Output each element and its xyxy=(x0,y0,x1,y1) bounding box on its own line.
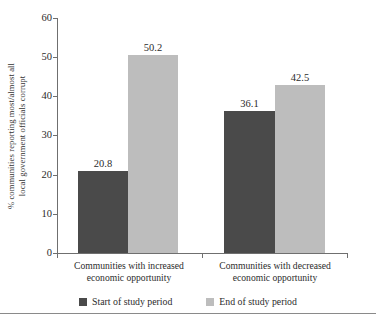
bar-increased-start[interactable] xyxy=(78,171,128,253)
bar-value-decreased-end: 42.5 xyxy=(275,72,325,83)
legend-item-start-of-study-period[interactable]: Start of study period xyxy=(79,297,172,307)
legend-swatch-icon-start xyxy=(79,298,87,306)
bar-chart-figure: % communities reporting most/almost all … xyxy=(0,0,376,324)
x-category-label-increased-line-1: Communities with increased xyxy=(54,260,204,272)
x-category-label-decreased-line-1: Communities with decreased xyxy=(200,260,350,272)
x-category-label-increased-line-2: economic opportunity xyxy=(54,272,204,284)
legend-item-end-of-study-period[interactable]: End of study period xyxy=(206,297,297,307)
x-category-label-increased: Communities with increased economic oppo… xyxy=(54,260,204,283)
bar-value-increased-end: 50.2 xyxy=(128,42,178,53)
legend-label-end: End of study period xyxy=(219,297,297,307)
bottom-divider xyxy=(0,313,376,314)
chart-legend: Start of study period End of study perio… xyxy=(0,294,376,310)
bar-value-increased-start: 20.8 xyxy=(78,158,128,169)
bar-decreased-start[interactable] xyxy=(224,111,275,253)
x-category-label-decreased: Communities with decreased economic oppo… xyxy=(200,260,350,283)
bar-value-decreased-start: 36.1 xyxy=(224,98,275,109)
bar-decreased-end[interactable] xyxy=(275,85,325,253)
bar-increased-end[interactable] xyxy=(128,55,178,253)
x-category-label-decreased-line-2: economic opportunity xyxy=(200,272,350,284)
legend-swatch-icon-end xyxy=(206,298,214,306)
legend-label-start: Start of study period xyxy=(92,297,172,307)
